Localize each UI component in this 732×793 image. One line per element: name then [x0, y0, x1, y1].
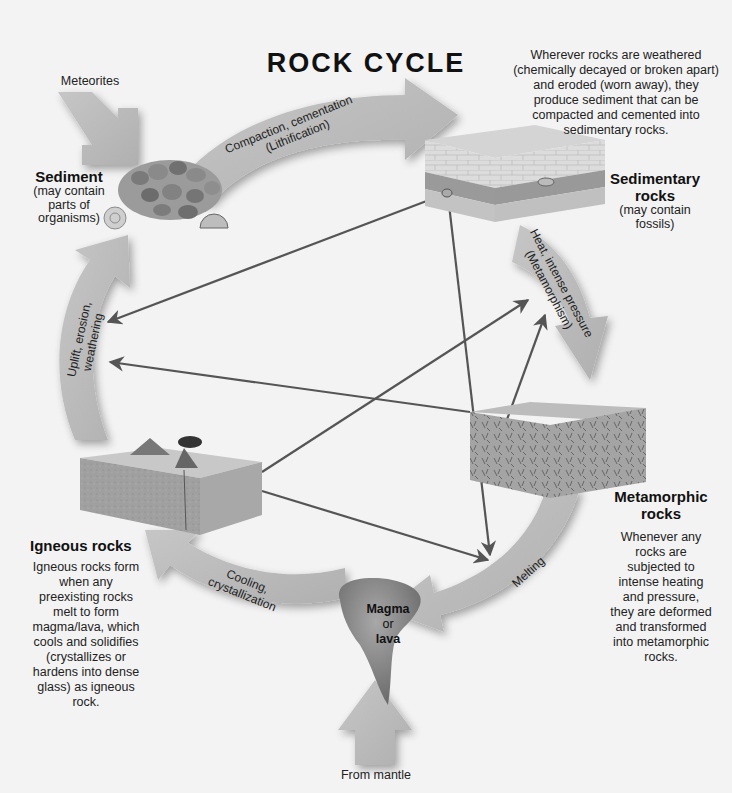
description-line: when any	[30, 575, 142, 590]
description-line: and pressure,	[596, 590, 726, 605]
metamorphic-heading: Metamorphic	[596, 488, 726, 505]
eruption-plume	[178, 436, 202, 448]
metamorphic-heading: rocks	[596, 505, 726, 522]
description-line: cools and solidifies	[30, 635, 142, 650]
description-line: rock.	[30, 695, 142, 710]
description-line: magma/lava, which	[30, 620, 142, 635]
description-line: Whenever any	[596, 530, 726, 545]
igneous-heading: Igneous rocks	[30, 537, 142, 554]
igneous-label-group: Igneous rocks Igneous rocks form when an…	[30, 537, 142, 710]
description-line: and eroded (worn away), they	[500, 78, 732, 93]
description-line: subjected to	[596, 560, 726, 575]
description-line: rocks are	[596, 545, 726, 560]
description-line: they are deformed	[596, 605, 726, 620]
description-line: preexisting rocks	[30, 590, 142, 605]
description-line: melt to form	[30, 605, 142, 620]
from-mantle-label: From mantle	[326, 768, 426, 783]
sediment-note-line: organisms)	[24, 212, 114, 226]
metamorphic-to-uplift-line	[110, 362, 470, 412]
sediment-heading: Sediment	[24, 168, 114, 185]
sedimentary-note-line: fossils)	[600, 218, 710, 232]
description-line: (chemically decayed or broken apart)	[500, 63, 732, 78]
description-line: and transformed	[596, 620, 726, 635]
igneous-to-melting-line	[262, 491, 488, 560]
description-line: rocks.	[596, 650, 726, 665]
meteorites-arrow	[58, 92, 138, 165]
sedimentary-rock-block	[425, 125, 605, 222]
volcano-cone	[130, 438, 170, 455]
igneous-rock-block	[80, 436, 262, 535]
magma-label-line1: Magma	[366, 602, 410, 616]
description-line: sedimentary rocks.	[500, 123, 732, 138]
description-line: (crystallizes or	[30, 650, 142, 665]
description-line: glass) as igneous	[30, 680, 142, 695]
meteorites-label: Meteorites	[40, 74, 140, 89]
description-line: compacted and cemented into	[500, 108, 732, 123]
description-line: Igneous rocks form	[30, 560, 142, 575]
description-line: intense heating	[596, 575, 726, 590]
description-line: produce sediment that can be	[500, 93, 732, 108]
magma-blob-illustration: Magma or lava	[339, 578, 421, 705]
sediment-note-line: (may contain	[24, 185, 114, 199]
sedimentary-heading: rocks	[600, 187, 710, 204]
sedimentary-note-line: (may contain	[600, 204, 710, 218]
sedimentary-description: Wherever rocks are weathered (chemically…	[500, 48, 732, 138]
metamorphic-rock-block	[470, 402, 646, 498]
description-line: into metamorphic	[596, 635, 726, 650]
metamorphic-label-group: Metamorphic rocks Whenever any rocks are…	[596, 488, 726, 665]
description-line: hardens into dense	[30, 665, 142, 680]
from-mantle-arrow	[338, 680, 412, 765]
magma-label-line3: lava	[376, 632, 401, 646]
sedimentary-heading: Sedimentary	[600, 170, 710, 187]
sedimentary-label-group: Sedimentary rocks (may contain fossils)	[600, 170, 710, 231]
sediment-note-line: parts of	[24, 199, 114, 213]
sediment-label-group: Sediment (may contain parts of organisms…	[24, 168, 114, 226]
description-line: Wherever rocks are weathered	[500, 48, 732, 63]
sedimentary-to-melting-line	[448, 196, 490, 555]
lithification-arrow	[182, 78, 458, 205]
magma-label-line2: or	[382, 617, 393, 631]
